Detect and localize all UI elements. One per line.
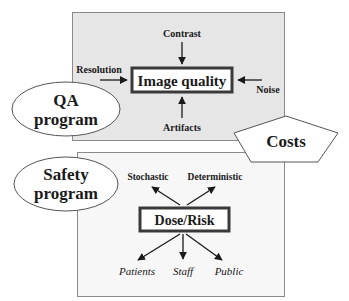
stochastic-label: Stochastic: [127, 172, 168, 182]
deterministic-label: Deterministic: [188, 172, 243, 182]
safety-program-label-line1: Safety: [43, 165, 89, 184]
artifacts-label: Artifacts: [163, 122, 201, 133]
public-label: Public: [214, 265, 244, 277]
resolution-label: Resolution: [76, 64, 122, 75]
qa-program-label-line2: program: [34, 110, 98, 129]
diagram-canvas: Image quality Contrast Resolution Noise …: [0, 0, 349, 301]
noise-label: Noise: [256, 84, 280, 95]
safety-program-label-line2: program: [34, 184, 98, 203]
contrast-label: Contrast: [163, 28, 201, 39]
qa-program-label-line1: QA: [53, 91, 79, 110]
costs-label: Costs: [266, 132, 306, 151]
image-quality-label: Image quality: [138, 73, 227, 89]
dose-risk-label: Dose/Risk: [155, 213, 215, 228]
staff-label: Staff: [173, 265, 195, 277]
patients-label: Patients: [118, 265, 155, 277]
